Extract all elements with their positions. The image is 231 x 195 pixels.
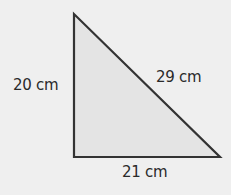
triangle-figure — [0, 0, 231, 195]
bottom-side-label: 21 cm — [122, 163, 167, 181]
hypotenuse-label: 29 cm — [156, 68, 201, 86]
left-side-label: 20 cm — [13, 76, 58, 94]
